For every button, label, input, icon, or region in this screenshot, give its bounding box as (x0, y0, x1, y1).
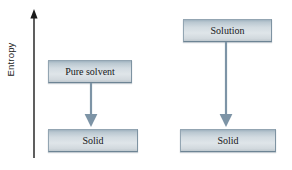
entropy-diagram: Entropy Pure solvent Solid Solution Soli… (0, 0, 292, 170)
entropy-axis (26, 6, 42, 162)
down-arrow-icon (218, 42, 234, 129)
arrow-pure-solvent-to-solid (83, 83, 99, 129)
arrow-solution-to-solid (218, 42, 234, 129)
node-pure-solvent: Pure solvent (48, 60, 132, 83)
down-arrow-icon (83, 83, 99, 129)
node-solid-right-label: Solid (217, 136, 238, 146)
entropy-axis-label: Entropy (5, 12, 16, 108)
node-pure-solvent-label: Pure solvent (65, 67, 115, 77)
entropy-axis-arrow-icon (26, 6, 42, 162)
node-solid-left-label: Solid (82, 136, 103, 146)
node-solid-left: Solid (48, 129, 138, 152)
node-solid-right: Solid (180, 129, 276, 152)
node-solution-label: Solution (211, 26, 245, 36)
node-solution: Solution (183, 19, 272, 42)
